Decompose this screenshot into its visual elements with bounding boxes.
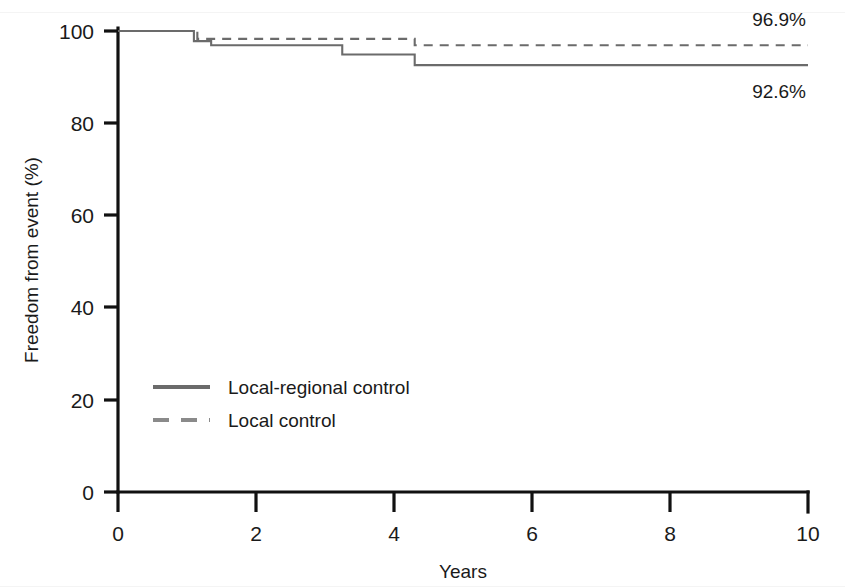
y-tick-label-100: 100 — [59, 20, 94, 43]
x-tick-label-0: 0 — [112, 522, 124, 545]
y-tick-label-0: 0 — [82, 481, 94, 504]
y-tick-label-60: 60 — [71, 204, 94, 227]
legend-label-local-regional-control: Local-regional control — [228, 377, 410, 398]
chart-canvas: 100 80 60 40 20 0 0 2 4 6 8 10 Years Fre… — [0, 0, 845, 588]
legend: Local-regional control Local control — [153, 377, 410, 431]
y-axis-title: Freedom from event (%) — [21, 157, 42, 363]
x-tick-label-10: 10 — [796, 522, 819, 545]
scan-artifact-band-bottom — [0, 586, 845, 587]
legend-label-local-control: Local control — [228, 410, 336, 431]
y-tick-label-80: 80 — [71, 112, 94, 135]
x-tick-label-8: 8 — [664, 522, 676, 545]
x-tick-label-4: 4 — [388, 522, 400, 545]
x-tick-label-6: 6 — [526, 522, 538, 545]
axis-group — [118, 28, 808, 512]
series-group — [118, 31, 808, 65]
y-tick-marks — [104, 31, 118, 492]
kaplan-meier-figure: 100 80 60 40 20 0 0 2 4 6 8 10 Years Fre… — [0, 0, 845, 588]
y-tick-label-20: 20 — [71, 389, 94, 412]
x-tick-labels: 0 2 4 6 8 10 — [112, 522, 820, 545]
endpoint-label-local-regional-control: 92.6% — [752, 81, 806, 102]
series-local-regional-control-line — [118, 31, 808, 65]
x-tick-marks — [118, 492, 670, 512]
y-tick-labels: 100 80 60 40 20 0 — [59, 20, 94, 504]
x-tick-label-2: 2 — [250, 522, 262, 545]
x-axis-title: Years — [439, 561, 487, 582]
series-local-control-line — [118, 31, 808, 45]
y-tick-label-40: 40 — [71, 296, 94, 319]
scan-artifact-band-top — [0, 12, 845, 13]
